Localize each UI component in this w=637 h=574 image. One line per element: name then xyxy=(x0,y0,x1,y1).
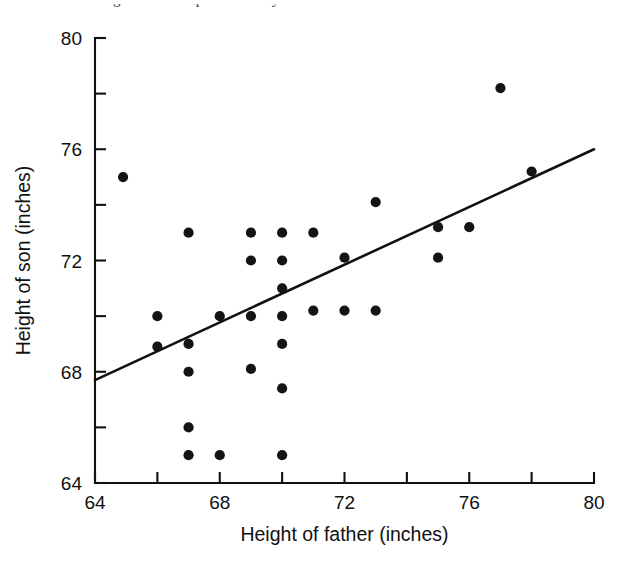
data-point xyxy=(277,255,287,265)
x-tick-label: 80 xyxy=(583,492,604,513)
data-point xyxy=(464,222,474,232)
y-tick-label: 72 xyxy=(61,251,82,272)
data-point xyxy=(246,311,256,321)
data-point xyxy=(277,383,287,393)
data-point xyxy=(433,253,443,263)
data-point xyxy=(308,305,318,315)
data-point xyxy=(215,450,225,460)
data-point xyxy=(152,311,162,321)
data-point xyxy=(183,339,193,349)
y-tick-label: 80 xyxy=(61,28,82,49)
x-tick-label: 64 xyxy=(84,492,106,513)
data-point xyxy=(277,339,287,349)
x-tick-label: 76 xyxy=(459,492,480,513)
data-point xyxy=(277,283,287,293)
data-point xyxy=(339,253,349,263)
data-point xyxy=(277,311,287,321)
x-axis-tick-labels: 6468727680 xyxy=(84,492,604,513)
x-tick-label: 72 xyxy=(334,492,355,513)
data-point xyxy=(152,342,162,352)
y-axis-title: Height of son (inches) xyxy=(12,166,34,356)
data-point xyxy=(339,305,349,315)
y-axis-tick-labels: 6468727680 xyxy=(61,28,83,494)
data-point xyxy=(183,422,193,432)
data-point xyxy=(527,166,537,176)
data-point xyxy=(183,367,193,377)
data-point xyxy=(277,228,287,238)
data-point xyxy=(246,255,256,265)
data-point xyxy=(183,228,193,238)
x-tick-label: 68 xyxy=(209,492,230,513)
data-point xyxy=(495,83,505,93)
x-axis-title: Height of father (inches) xyxy=(240,523,448,545)
data-point xyxy=(371,197,381,207)
data-point xyxy=(246,228,256,238)
data-point xyxy=(277,450,287,460)
data-point xyxy=(308,228,318,238)
y-tick-label: 64 xyxy=(61,473,83,494)
data-point xyxy=(118,172,128,182)
scatter-plot-figure: son. The regression line predicts the y.… xyxy=(0,0,637,574)
data-point xyxy=(183,450,193,460)
data-point xyxy=(215,311,225,321)
data-point xyxy=(433,222,443,232)
data-point xyxy=(371,305,381,315)
scatter-chart-canvas: 6468727680 6468727680 Height of father (… xyxy=(0,0,637,574)
regression-line-segment xyxy=(95,149,594,380)
y-tick-label: 68 xyxy=(61,362,82,383)
data-point xyxy=(246,364,256,374)
regression-line xyxy=(95,149,594,380)
y-tick-label: 76 xyxy=(61,139,82,160)
